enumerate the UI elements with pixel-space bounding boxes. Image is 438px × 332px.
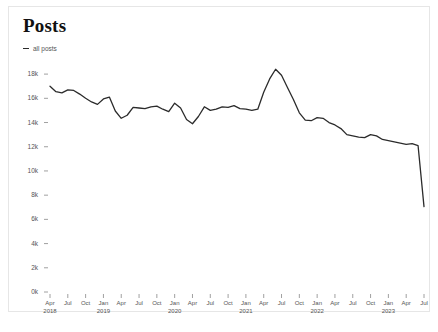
y-axis-tick-label: 2k bbox=[16, 264, 38, 271]
y-axis-tick-label: 4k bbox=[16, 240, 38, 247]
posts-chart-card: Posts all posts bbox=[8, 6, 430, 312]
y-axis-tick-label: 0k bbox=[16, 288, 38, 295]
x-axis-tick-label: Jul bbox=[411, 300, 437, 308]
chart-legend[interactable]: all posts bbox=[23, 45, 57, 52]
y-axis-tick-label: 14k bbox=[16, 119, 38, 126]
line-swatch-icon bbox=[23, 48, 29, 50]
y-axis-tick-label: 8k bbox=[16, 191, 38, 198]
y-axis-tick-label: 12k bbox=[16, 143, 38, 150]
legend-label: all posts bbox=[33, 45, 57, 52]
page-title: Posts bbox=[23, 15, 66, 37]
y-axis-tick-label: 6k bbox=[16, 215, 38, 222]
y-axis-tick-label: 18k bbox=[16, 70, 38, 77]
y-axis-tick-label: 16k bbox=[16, 94, 38, 101]
y-axis-tick-label: 10k bbox=[16, 167, 38, 174]
